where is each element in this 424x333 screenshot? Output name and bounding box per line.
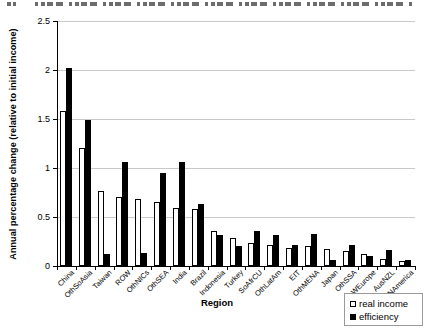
legend-box: real income efficiency [344,293,423,326]
gridline [57,217,415,218]
bar-efficiency-OthLatAm [273,235,279,266]
x-axis-tick [76,266,77,270]
cropped-page-header-gap [16,0,29,6]
x-axis-tick [264,266,265,270]
efficiency-swatch-icon [350,314,356,320]
cropped-page-header-text [7,2,415,6]
y-axis-line [57,21,58,267]
bar-efficiency-OthMENA [311,234,317,266]
x-tick-label: Taiwan [91,268,114,291]
x-axis-tick [321,266,322,270]
bar-efficiency-SoAfrCU [254,231,260,266]
y-tick-label: 2.5 [26,16,50,26]
x-axis-tick [227,266,228,270]
x-axis-tick [396,266,397,270]
bar-efficiency-China [66,68,72,266]
x-axis-tick [245,266,246,270]
x-tick-label: India [171,268,189,286]
x-axis-tick [415,266,416,270]
gridline [57,21,415,22]
real-income-swatch-icon [350,301,356,307]
legend-entry-real-income: real income [350,297,422,310]
bar-efficiency-EIT [292,245,298,266]
x-axis-tick [377,266,378,270]
x-axis-tick [151,266,152,270]
bar-efficiency-Brazil [198,204,204,266]
x-axis-tick [358,266,359,270]
figure-page: Annual percentage change (relative to in… [0,0,424,333]
x-axis-tick [208,266,209,270]
x-axis-tick [283,266,284,270]
y-tick-label: 1 [26,163,50,173]
y-tick-label: 0 [26,261,50,271]
bar-efficiency-OthSoAsia [85,120,91,266]
x-axis-tick [340,266,341,270]
x-axis-title: Region [57,297,377,308]
bar-efficiency-Taiwan [104,254,110,266]
x-axis-tick [95,266,96,270]
bar-efficiency-WEurope [367,256,373,266]
y-tick-label: 0.5 [26,212,50,222]
y-axis-title: Annual percentage change (relative to in… [8,28,18,259]
bar-efficiency-ROW [122,162,128,266]
x-axis-tick [114,266,115,270]
bar-efficiency-NAmerica [405,260,411,266]
bar-efficiency-OthNICs [141,253,147,266]
gridline [57,70,415,71]
bar-efficiency-OthSSA [349,245,355,266]
bar-efficiency-OthSEA [160,173,166,266]
bar-efficiency-Indonesia [217,235,223,266]
bar-efficiency-AusNZL [386,250,392,266]
x-axis-line [57,266,415,267]
y-tick-label: 2 [26,65,50,75]
x-axis-tick [170,266,171,270]
y-tick-label: 1.5 [26,114,50,124]
x-axis-tick [189,266,190,270]
x-tick-label: EIT [287,268,302,283]
gridline [57,119,415,120]
x-axis-tick [57,266,58,270]
x-axis-tick [302,266,303,270]
legend-label-efficiency: efficiency [359,311,398,322]
x-axis-tick [132,266,133,270]
bar-efficiency-Japan [330,260,336,266]
bar-efficiency-India [179,162,185,266]
legend-label-real-income: real income [359,298,408,309]
bar-efficiency-Turkey [236,246,242,266]
gridline [57,168,415,169]
legend-entry-efficiency: efficiency [350,310,422,323]
